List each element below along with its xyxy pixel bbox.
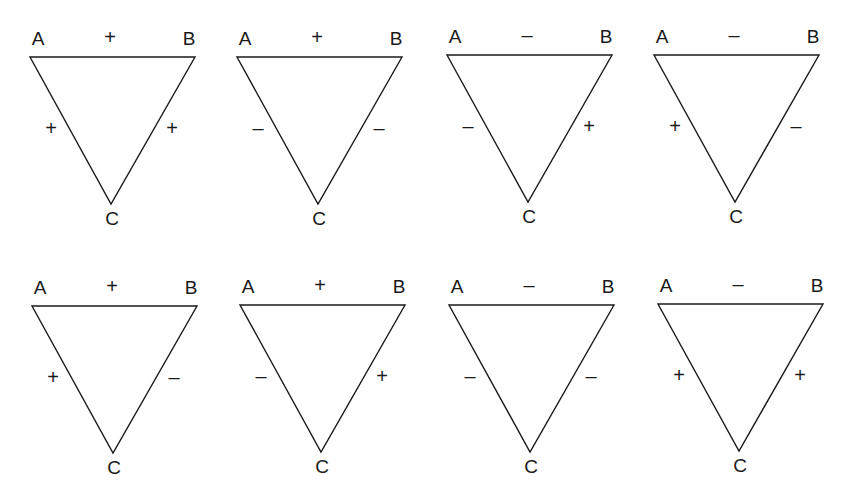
edge-sign-ab: – — [521, 25, 532, 45]
vertex-label-c: C — [312, 209, 326, 228]
edge-sign-ac: + — [47, 367, 59, 387]
vertex-label-a: A — [34, 278, 47, 297]
edge-sign-bc: + — [376, 366, 388, 386]
signed-triangle-2: A B C + – – — [207, 0, 407, 230]
triangle-outline — [628, 247, 828, 477]
edge-sign-ab: – — [732, 274, 743, 294]
vertex-label-a: A — [660, 276, 673, 295]
edge-sign-bc: + — [583, 116, 595, 136]
edge-sign-ac: – — [252, 118, 263, 138]
edge-sign-ac: + — [673, 365, 685, 385]
triangle-outline — [2, 249, 202, 479]
vertex-label-c: C — [522, 207, 536, 226]
edge-sign-ac: – — [462, 116, 473, 136]
signed-triangle-8: A B C – + + — [628, 247, 828, 477]
vertex-label-c: C — [524, 457, 538, 476]
triangle-outline — [210, 248, 410, 478]
edge-sign-ab: – — [523, 275, 534, 295]
edge-sign-bc: + — [166, 118, 178, 138]
edge-sign-ab: + — [104, 27, 116, 47]
signed-triangle-4: A B C – + – — [624, 0, 824, 228]
triangle-outline — [0, 0, 200, 230]
triangle-outline — [417, 0, 617, 228]
vertex-label-b: B — [811, 276, 824, 295]
edge-sign-ab: – — [728, 25, 739, 45]
signed-triangle-6: A B C + – + — [210, 248, 410, 478]
signed-triangles-figure: A B C + + + A B C + – – A B C – – + A B … — [0, 0, 855, 504]
vertex-label-b: B — [183, 29, 196, 48]
vertex-label-c: C — [315, 457, 329, 476]
signed-triangle-5: A B C + + – — [2, 249, 202, 479]
vertex-label-a: A — [451, 277, 464, 296]
edge-sign-bc: – — [790, 116, 801, 136]
vertex-label-b: B — [602, 277, 615, 296]
triangle-outline — [419, 248, 619, 478]
vertex-label-b: B — [390, 29, 403, 48]
triangle-outline — [624, 0, 824, 228]
vertex-label-a: A — [32, 29, 45, 48]
triangle-outline — [207, 0, 407, 230]
vertex-label-b: B — [807, 27, 820, 46]
signed-triangle-1: A B C + + + — [0, 0, 200, 230]
edge-sign-ac: – — [464, 366, 475, 386]
vertex-label-a: A — [449, 27, 462, 46]
vertex-label-b: B — [185, 278, 198, 297]
vertex-label-a: A — [239, 29, 252, 48]
vertex-label-c: C — [105, 209, 119, 228]
vertex-label-b: B — [600, 27, 613, 46]
edge-sign-ac: – — [255, 366, 266, 386]
edge-sign-ac: + — [669, 116, 681, 136]
signed-triangle-3: A B C – – + — [417, 0, 617, 228]
vertex-label-c: C — [733, 456, 747, 475]
edge-sign-bc: + — [794, 365, 806, 385]
vertex-label-a: A — [656, 27, 669, 46]
edge-sign-ab: + — [106, 276, 118, 296]
edge-sign-bc: – — [373, 118, 384, 138]
edge-sign-bc: – — [585, 366, 596, 386]
signed-triangle-7: A B C – – – — [419, 248, 619, 478]
edge-sign-ab: + — [314, 275, 326, 295]
edge-sign-ac: + — [45, 118, 57, 138]
vertex-label-c: C — [729, 207, 743, 226]
edge-sign-bc: – — [168, 367, 179, 387]
edge-sign-ab: + — [311, 27, 323, 47]
vertex-label-a: A — [242, 277, 255, 296]
vertex-label-c: C — [107, 458, 121, 477]
vertex-label-b: B — [393, 277, 406, 296]
